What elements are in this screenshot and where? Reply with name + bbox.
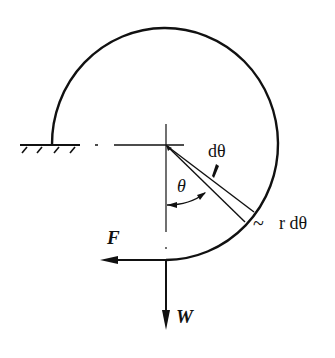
label-dtheta: dθ — [208, 141, 226, 161]
fixed-support — [20, 145, 80, 153]
label-theta: θ — [177, 176, 186, 196]
label-r-dtheta: r dθ — [279, 213, 307, 233]
diagram-canvas: dθ θ ~ r dθ F W — [0, 0, 335, 358]
label-tilde: ~ — [253, 212, 264, 234]
label-weight-W: W — [176, 306, 194, 327]
theta-arrow-head-left — [167, 202, 177, 208]
force-F-arrow — [100, 256, 166, 264]
dtheta-pointer-arrow — [212, 164, 219, 178]
theta-arrow-head-right — [197, 192, 206, 200]
rope-arc — [52, 28, 278, 260]
weight-W-arrow — [162, 260, 170, 330]
label-force-F: F — [106, 227, 120, 248]
